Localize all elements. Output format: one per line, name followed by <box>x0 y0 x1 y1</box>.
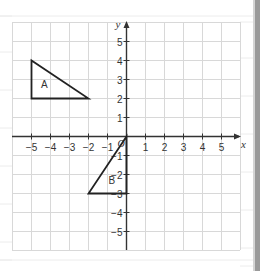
axes: x y O <box>12 18 246 250</box>
x-tick-label: 1 <box>143 142 149 153</box>
y-tick-label: 5 <box>117 37 123 48</box>
y-tick-label: −4 <box>111 208 123 219</box>
scrollbar[interactable] <box>255 0 260 271</box>
x-tick-label: 5 <box>219 142 225 153</box>
x-tick-label: −3 <box>64 142 76 153</box>
x-tick-label: −2 <box>83 142 95 153</box>
y-tick-label: 4 <box>117 56 123 67</box>
coordinate-grid-figure: x y O −5−4−3−2−11234554321−1−2−3−4−5 AB <box>0 0 261 271</box>
y-tick-label: 3 <box>117 75 123 86</box>
x-axis-arrow-icon <box>234 134 241 140</box>
x-tick-label: −5 <box>26 142 38 153</box>
x-tick-label: 3 <box>181 142 187 153</box>
y-axis-label: y <box>115 18 121 30</box>
x-tick-label: 4 <box>200 142 206 153</box>
y-tick-label: 2 <box>117 94 123 105</box>
y-tick-label: −5 <box>111 227 123 238</box>
y-tick-label: 1 <box>117 113 123 124</box>
triangle-b-label: B <box>108 175 115 186</box>
triangle-a-label: A <box>41 79 48 90</box>
x-axis-label: x <box>240 138 246 150</box>
x-tick-label: 2 <box>162 142 168 153</box>
x-tick-label: −4 <box>45 142 57 153</box>
coordinate-plane: x y O −5−4−3−2−11234554321−1−2−3−4−5 AB <box>0 0 261 271</box>
